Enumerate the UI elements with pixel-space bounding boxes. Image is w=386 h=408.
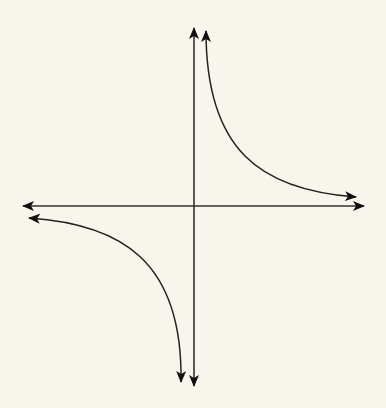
curve-quadrant-3 <box>29 218 181 382</box>
curve-quadrant-1 <box>206 31 356 197</box>
hyperbola-chart <box>0 0 386 408</box>
